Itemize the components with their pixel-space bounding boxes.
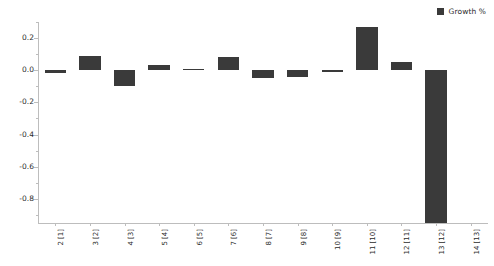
x-tick-label: 12 [11] (404, 229, 411, 255)
x-tick-label: 9 [8] (301, 229, 308, 246)
x-axis-ticks: 2 [1]3 [2]4 [3]5 [4]6 [5]7 [6]8 [7]9 [8]… (38, 223, 488, 266)
bar-series (38, 22, 488, 223)
x-tick-label: 10 [9] (335, 229, 342, 250)
chart-legend: Growth % (437, 7, 486, 16)
bar (45, 70, 66, 73)
legend-entry-label: Growth % (449, 7, 486, 16)
x-tick-mark (125, 223, 126, 226)
x-tick-mark (159, 223, 160, 226)
y-tick-label: -0.8 (19, 195, 34, 203)
bar (356, 27, 377, 70)
x-tick-mark (263, 223, 264, 226)
bar (183, 69, 204, 71)
x-tick-mark (401, 223, 402, 226)
growth-bar-chart: Growth % 0.20.0-0.2-0.4-0.6-0.8 2 [1]3 [… (0, 0, 494, 266)
x-tick-label: 2 [1] (58, 229, 65, 246)
bar (252, 70, 273, 78)
x-tick-mark (332, 223, 333, 226)
bar (391, 62, 412, 70)
x-tick-mark (194, 223, 195, 226)
y-tick-label: -0.6 (19, 163, 34, 171)
bar (287, 70, 308, 76)
bar (218, 57, 239, 70)
x-tick-label: 8 [7] (266, 229, 273, 246)
bar (114, 70, 135, 86)
x-tick-label: 3 [2] (93, 229, 100, 246)
x-tick-label: 11 [10] (370, 229, 377, 255)
y-tick-label: -0.2 (19, 99, 34, 107)
plot-area: 0.20.0-0.2-0.4-0.6-0.8 2 [1]3 [2]4 [3]5 … (38, 22, 488, 223)
bar (425, 70, 446, 223)
x-tick-mark (228, 223, 229, 226)
x-tick-mark (436, 223, 437, 226)
x-tick-label: 7 [6] (231, 229, 238, 246)
bar (148, 65, 169, 70)
x-tick-mark (471, 223, 472, 226)
y-tick-label: 0.0 (22, 66, 34, 74)
y-tick-label: -0.4 (19, 131, 34, 139)
x-tick-mark (55, 223, 56, 226)
y-tick-label: 0.2 (22, 34, 34, 42)
x-tick-mark (90, 223, 91, 226)
x-tick-label: 4 [3] (128, 229, 135, 246)
x-tick-label: 13 [12] (439, 229, 446, 255)
bar (322, 70, 343, 72)
bar (79, 56, 100, 70)
x-tick-label: 5 [4] (162, 229, 169, 246)
x-tick-mark (367, 223, 368, 226)
x-tick-mark (298, 223, 299, 226)
x-tick-label: 14 [13] (474, 229, 481, 255)
square-swatch-icon (437, 8, 444, 15)
x-tick-label: 6 [5] (197, 229, 204, 246)
